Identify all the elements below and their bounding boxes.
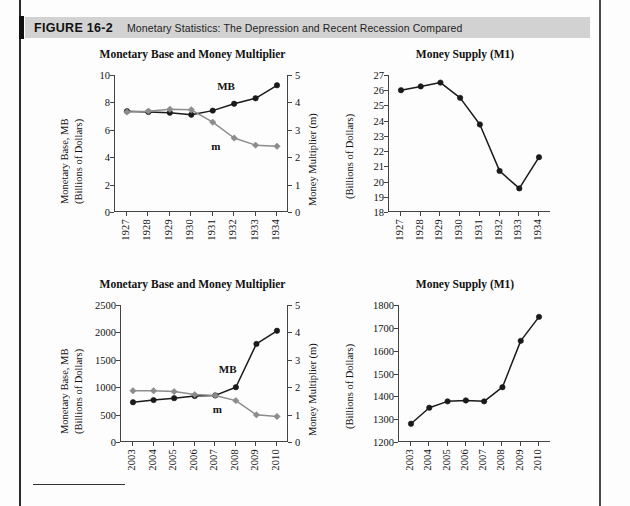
- series-label-mb: MB: [217, 80, 235, 92]
- y-axis-title-left: (Billions of Dollars): [344, 326, 355, 446]
- x-axis-tick-mark: [410, 442, 411, 446]
- x-axis-tick-label: 2006: [459, 449, 470, 471]
- y-axis-secondary-tick-mark: [288, 442, 292, 443]
- data-point-marker: [274, 328, 279, 333]
- y-axis-secondary-tick-mark: [288, 185, 292, 186]
- x-axis-tick-label: 2010: [532, 449, 543, 471]
- x-axis-tick-label: 1932: [227, 219, 238, 241]
- plot-area: [120, 305, 288, 442]
- data-point-marker: [130, 400, 135, 405]
- y-axis-secondary-tick-label: 4: [295, 97, 300, 108]
- y-axis-tick-label: 18: [336, 207, 384, 218]
- y-axis-tick-mark: [384, 136, 388, 137]
- y-axis-secondary-tick-label: 4: [295, 327, 300, 338]
- y-axis-tick-mark: [394, 374, 398, 375]
- data-point-marker: [274, 83, 279, 88]
- chart-recession-monetary-base: Monetary Base and Money Multiplier Monet…: [55, 278, 330, 468]
- y-axis-tick-label: 1500: [346, 368, 394, 379]
- data-point-marker: [274, 413, 280, 419]
- x-axis-tick-mark: [520, 442, 521, 446]
- series-label-mb: MB: [219, 363, 237, 375]
- x-axis-tick-label: 2006: [188, 449, 199, 471]
- x-axis-tick-label: 1933: [512, 219, 523, 241]
- x-axis-tick-mark: [538, 442, 539, 446]
- data-point-marker: [463, 398, 468, 403]
- x-axis-tick-label: 2003: [404, 449, 415, 471]
- y-axis-tick-mark: [110, 157, 114, 158]
- y-axis-tick-label: 6: [62, 124, 110, 135]
- data-point-marker: [481, 399, 486, 404]
- y-axis-tick-label: 500: [68, 409, 116, 420]
- data-point-marker: [536, 155, 541, 160]
- y-axis-tick-label: 4: [62, 152, 110, 163]
- series-m: [130, 388, 280, 420]
- x-axis-tick-label: 2010: [270, 449, 281, 471]
- y-axis-tick-mark: [384, 212, 388, 213]
- y-axis-tick-mark: [116, 360, 120, 361]
- chart-title: Monetary Base and Money Multiplier: [55, 48, 330, 60]
- x-axis-tick-label: 2004: [147, 449, 158, 471]
- data-point-marker: [252, 142, 258, 148]
- x-axis-tick-label: 1929: [433, 219, 444, 241]
- data-point-marker: [171, 395, 176, 400]
- x-axis-tick-label: 1929: [163, 219, 174, 241]
- x-axis-tick-mark: [483, 442, 484, 446]
- y-axis-tick-mark: [394, 419, 398, 420]
- data-point-marker: [408, 421, 413, 426]
- y-axis-tick-mark: [384, 121, 388, 122]
- data-point-marker: [210, 108, 215, 113]
- figure-label: FIGURE 16-2: [34, 21, 113, 35]
- x-axis-tick-mark: [459, 212, 460, 216]
- x-axis-tick-mark: [518, 212, 519, 216]
- y-axis-tick-mark: [384, 197, 388, 198]
- x-axis-tick-mark: [132, 442, 133, 446]
- x-axis-tick-label: 2003: [126, 449, 137, 471]
- chart-title: Money Supply (M1): [340, 278, 590, 290]
- y-axis-tick-mark: [394, 396, 398, 397]
- data-point-marker: [427, 405, 432, 410]
- y-axis-tick-label: 2: [62, 179, 110, 190]
- x-axis-tick-mark: [447, 442, 448, 446]
- y-axis-secondary-tick-label: 1: [295, 179, 300, 190]
- x-axis-tick-mark: [212, 212, 213, 216]
- x-axis-tick-mark: [169, 212, 170, 216]
- y-axis-tick-mark: [384, 75, 388, 76]
- x-axis-tick-mark: [255, 212, 256, 216]
- data-point-marker: [497, 168, 502, 173]
- y-axis-tick-label: 1000: [68, 382, 116, 393]
- y-axis-tick-mark: [110, 130, 114, 131]
- y-axis-tick-label: 23: [336, 130, 384, 141]
- y-axis-tick-label: 1700: [346, 322, 394, 333]
- y-axis-tick-label: 21: [336, 161, 384, 172]
- plot-area: [114, 75, 288, 212]
- y-axis-tick-label: 26: [336, 85, 384, 96]
- data-point-marker: [188, 107, 194, 113]
- y-axis-tick-mark: [116, 332, 120, 333]
- y-axis-tick-label: 1500: [68, 354, 116, 365]
- data-point-marker: [418, 84, 423, 89]
- x-axis-tick-mark: [194, 442, 195, 446]
- data-point-marker: [274, 143, 280, 149]
- y-axis-secondary-tick-label: 0: [295, 437, 300, 448]
- y-axis-tick-label: 1400: [346, 391, 394, 402]
- y-axis-tick-mark: [116, 415, 120, 416]
- chart-depression-money-supply: Money Supply (M1) (Billions of Dollars) …: [340, 48, 590, 238]
- plot-area: [388, 75, 550, 212]
- data-point-marker: [500, 385, 505, 390]
- series-label-m: m: [213, 403, 222, 415]
- y-axis-tick-label: 19: [336, 191, 384, 202]
- x-axis-tick-mark: [479, 212, 480, 216]
- chart-canvas: [389, 75, 551, 212]
- y-axis-tick-mark: [384, 182, 388, 183]
- y-axis-secondary-tick-mark: [288, 75, 292, 76]
- x-axis-tick-label: 1931: [206, 219, 217, 241]
- y-axis-secondary-tick-label: 1: [295, 409, 300, 420]
- y-axis-title-right: Money Multiplier (m): [307, 100, 318, 220]
- data-point-marker: [518, 338, 523, 343]
- y-axis-tick-mark: [110, 212, 114, 213]
- x-axis-tick-mark: [538, 212, 539, 216]
- y-axis-secondary-tick-label: 5: [295, 70, 300, 81]
- data-point-marker: [438, 80, 443, 85]
- x-axis-tick-mark: [420, 212, 421, 216]
- x-axis-tick-label: 2008: [495, 449, 506, 471]
